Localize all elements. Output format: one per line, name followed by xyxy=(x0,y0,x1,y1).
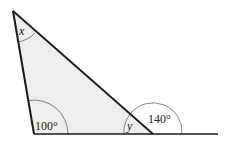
label-100: 100° xyxy=(35,119,58,133)
label-y: y xyxy=(126,119,133,133)
triangle-diagram: x 100° y 140° xyxy=(0,0,228,147)
label-140: 140° xyxy=(148,112,171,126)
label-x: x xyxy=(18,24,25,38)
